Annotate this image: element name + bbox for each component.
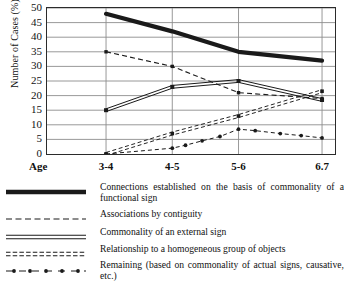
data-point — [237, 91, 240, 94]
y-tick-label: 0 — [37, 148, 43, 159]
data-point — [200, 139, 204, 143]
plot-lines — [47, 8, 335, 154]
data-point — [320, 89, 324, 93]
y-axis-ticks: 05101520253035404550 — [20, 0, 42, 160]
series-line — [106, 93, 322, 154]
data-point — [104, 50, 107, 53]
data-point — [170, 85, 174, 89]
series-dot-dash — [104, 127, 324, 154]
y-tick-label: 25 — [31, 75, 42, 86]
chart-area: Number of Cases (%) 05101520253035404550… — [0, 0, 344, 182]
legend-label: Connections established on the basis of … — [100, 181, 344, 203]
x-tick-label: 4-5 — [165, 160, 180, 172]
data-point — [170, 146, 174, 150]
legend-label: Associations by contiguity — [100, 208, 344, 219]
data-point — [299, 134, 303, 138]
series-line — [106, 129, 322, 154]
legend-swatch-double-solid — [6, 231, 86, 245]
data-point — [278, 132, 282, 136]
series-fine-dashed — [104, 89, 324, 154]
chart-figure: Number of Cases (%) 05101520253035404550… — [0, 0, 344, 281]
legend-label: Relationship to a homogeneous group of o… — [100, 243, 344, 254]
data-point — [237, 114, 241, 118]
x-tick-label: 6.7 — [315, 160, 329, 172]
y-tick-label: 10 — [31, 118, 42, 129]
data-point — [218, 135, 222, 139]
legend-swatch-fine-dashed — [6, 248, 86, 262]
data-point — [104, 108, 108, 112]
data-point — [253, 129, 257, 133]
y-tick-label: 5 — [37, 133, 43, 144]
x-tick-label: 3-4 — [99, 160, 114, 172]
series-line — [106, 90, 322, 153]
y-tick-label: 15 — [31, 104, 42, 115]
x-axis-ticks: Age 3-44-55-66.7 — [0, 160, 344, 180]
y-tick-label: 30 — [31, 60, 42, 71]
data-point — [320, 98, 324, 102]
y-tick-label: 20 — [31, 89, 42, 100]
y-tick-label: 50 — [31, 2, 42, 13]
x-axis-title: Age — [29, 160, 47, 172]
data-point — [320, 136, 324, 140]
data-point — [170, 132, 174, 136]
legend-swatch-thick-solid — [6, 186, 86, 200]
legend-swatch-dashed — [6, 213, 86, 227]
x-tick-label: 5-6 — [231, 160, 246, 172]
legend-swatch-dot-dash — [6, 265, 86, 279]
y-tick-label: 40 — [31, 31, 42, 42]
plot-area — [46, 7, 336, 155]
data-point — [237, 127, 241, 131]
y-axis-title: Number of Cases (%) — [9, 0, 20, 104]
y-tick-label: 45 — [31, 16, 42, 27]
legend-label: Remaining (based on commonality of actua… — [100, 259, 344, 281]
legend-label: Commonality of an external sign — [100, 226, 344, 237]
data-point — [171, 65, 174, 68]
data-point — [237, 79, 241, 83]
chart-legend: Connections established on the basis of … — [0, 183, 344, 281]
data-point — [184, 143, 188, 147]
y-tick-label: 35 — [31, 45, 42, 56]
